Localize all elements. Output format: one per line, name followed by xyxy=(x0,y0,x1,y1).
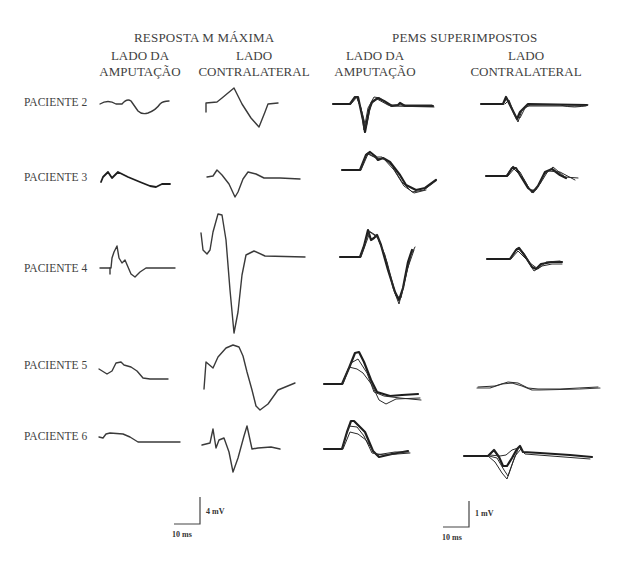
trace-p6-mep-amputation xyxy=(324,421,410,457)
trace-p6-mep-contralateral xyxy=(464,446,592,479)
trace-p2-mep-contralateral xyxy=(481,97,588,122)
trace-p5-mep-contralateral xyxy=(477,382,600,390)
trace-p3-mep-contralateral xyxy=(486,166,578,193)
emg-traces-figure xyxy=(0,0,621,561)
trace-p6-m-contralateral xyxy=(202,426,280,472)
trace-p2-m-contralateral xyxy=(206,88,278,127)
trace-p4-m-amputation xyxy=(100,246,175,277)
trace-p4-mep-contralateral xyxy=(487,248,562,271)
trace-p4-mep-amputation xyxy=(340,230,415,304)
trace-p5-m-amputation xyxy=(99,362,168,379)
trace-p4-m-contralateral xyxy=(201,214,305,333)
trace-p2-m-amputation xyxy=(100,100,169,114)
trace-p5-m-contralateral xyxy=(204,345,295,410)
scale-right-time: 10 ms xyxy=(442,533,462,542)
scale-bar-left xyxy=(174,497,200,524)
trace-p6-m-amputation xyxy=(99,433,180,442)
scale-left-time: 10 ms xyxy=(172,530,192,539)
scale-bar-right xyxy=(443,501,469,527)
trace-p3-m-amputation xyxy=(101,172,170,187)
trace-p2-mep-amputation xyxy=(333,96,434,132)
scale-left-voltage: 4 mV xyxy=(206,507,224,516)
trace-p3-mep-amputation xyxy=(342,152,436,193)
trace-p5-mep-amputation xyxy=(324,352,421,404)
scale-right-voltage: 1 mV xyxy=(475,509,493,518)
trace-p3-m-contralateral xyxy=(207,170,300,197)
